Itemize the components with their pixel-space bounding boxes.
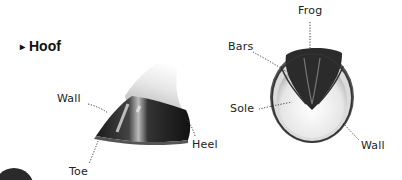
label-toe: Toe — [69, 165, 88, 178]
label-frog: Frog — [298, 4, 322, 17]
label-wall-side: Wall — [57, 92, 81, 105]
label-wall-sole: Wall — [361, 139, 385, 152]
label-bars: Bars — [228, 40, 253, 53]
label-heel: Heel — [192, 138, 218, 151]
side-hoof-illustration — [94, 56, 190, 145]
sole-hoof-illustration — [270, 48, 354, 143]
label-sole: Sole — [230, 102, 254, 115]
hoof-illustrations — [0, 0, 402, 180]
